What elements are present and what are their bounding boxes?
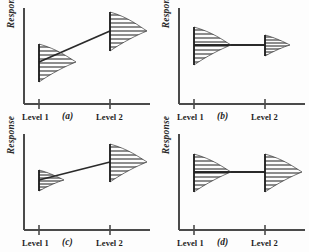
panel-b-level2-label: Level 2 bbox=[251, 112, 278, 122]
panel-a-level1-label: Level 1 bbox=[22, 112, 49, 122]
panel-b-level1-label: Level 1 bbox=[177, 112, 204, 122]
panel-c-plot bbox=[0, 126, 154, 252]
panel-d-distribution-level1 bbox=[194, 154, 235, 192]
panel-c: Response Level 1 (c) Level 2 bbox=[0, 126, 154, 252]
panel-d-tag: (d) bbox=[217, 237, 228, 247]
panel-d-level1-label: Level 1 bbox=[177, 238, 204, 248]
panel-b-distribution-level2 bbox=[265, 35, 294, 56]
panel-a-tag: (a) bbox=[62, 111, 73, 121]
panel-d-y-axis-label: Response bbox=[161, 102, 177, 168]
panel-a-level2-label: Level 2 bbox=[96, 112, 123, 122]
panel-d-plot bbox=[155, 126, 309, 252]
panel-a: Response Level 1 (a) Level 2 bbox=[0, 0, 154, 126]
panel-c-tag: (c) bbox=[62, 237, 73, 247]
panel-a-distribution-level1 bbox=[39, 44, 80, 82]
panel-c-level1-label: Level 1 bbox=[22, 238, 49, 248]
panel-a-distribution-level2 bbox=[110, 12, 151, 51]
interaction-plot-figure: Response Level 1 (a) Level 2 bbox=[0, 0, 309, 252]
panel-a-trend-line bbox=[39, 31, 110, 62]
panel-c-trend-line bbox=[39, 162, 110, 180]
panel-c-level2-label: Level 2 bbox=[96, 238, 123, 248]
panel-b-tag: (b) bbox=[217, 111, 228, 121]
panel-b-distribution-level1 bbox=[194, 27, 235, 65]
panel-b: Response Level 1 (b) Level 2 bbox=[155, 0, 309, 126]
panel-a-y-axis-label: Response bbox=[6, 0, 22, 42]
panel-b-plot bbox=[155, 0, 309, 126]
panel-a-plot bbox=[0, 0, 154, 126]
panel-c-y-axis-label: Response bbox=[6, 102, 22, 168]
panel-c-distribution-level2 bbox=[110, 144, 151, 182]
panel-d-distribution-level2 bbox=[265, 154, 306, 192]
panel-d: Response Level 1 (d) Level 2 bbox=[155, 126, 309, 252]
panel-b-y-axis-label: Response bbox=[161, 0, 177, 42]
panel-d-level2-label: Level 2 bbox=[251, 238, 278, 248]
